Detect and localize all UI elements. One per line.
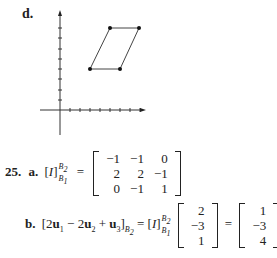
part-a-label: a. — [29, 164, 39, 179]
x-axis-arrow-icon — [140, 108, 146, 112]
vertices — [88, 26, 141, 71]
part-b-label: b. — [25, 216, 35, 231]
problem-number: 25. — [5, 164, 21, 179]
y-axis-arrow-icon — [58, 10, 62, 16]
problem-25-part-a: 25. a. [I]B2B1 = −1−10 22−1 0−11 — [5, 151, 181, 196]
vector-in: 2 −3 1 — [178, 203, 218, 248]
parallelogram-graph — [0, 0, 277, 140]
problem-25-part-b: b. [2u1 − 2u2 + u3]B2 = [I]B2B1 2 −3 1 =… — [25, 203, 277, 248]
vector-out: 1 −3 4 — [239, 203, 277, 248]
matrix-a: −1−10 22−1 0−11 — [93, 151, 181, 196]
parallelogram — [90, 28, 139, 69]
